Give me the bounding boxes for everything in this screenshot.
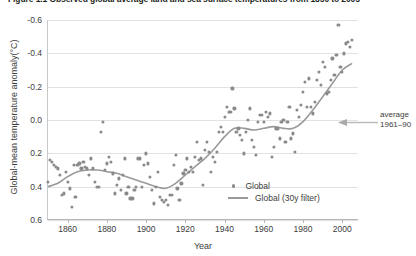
x-tick-label: 1860 [58,224,77,234]
legend-label-global: Global [245,181,270,191]
y-tick-label: -0.6 [27,15,42,25]
figure-title: Figure 1.1 Observed global average land … [8,0,412,6]
legend-line-icon [228,197,248,199]
arrow-left-icon [338,118,378,127]
y-axis-label: Global-mean temperature anomaly(°C) [9,17,19,217]
x-tick-label: 1960 [254,224,273,234]
x-tick-mark [342,220,343,223]
legend-dot-icon [232,184,235,187]
x-tick-mark [146,220,147,223]
y-tick-label: -0.2 [27,82,42,92]
legend-item-global: Global [228,180,320,192]
filter-line-path [48,63,352,188]
x-tick-mark [68,220,69,223]
x-tick-mark [303,220,304,223]
gridline-y [48,220,358,221]
x-tick-label: 1980 [294,224,313,234]
x-tick-label: 1920 [176,224,195,234]
legend: Global Global (30y filter) [228,180,320,204]
x-tick-label: 1880 [97,224,116,234]
x-tick-mark [264,220,265,223]
annotation-line-1: average [380,110,411,120]
x-tick-mark [185,220,186,223]
y-tick-label: 0.4 [30,182,42,192]
y-tick-label: 0.0 [30,115,42,125]
legend-item-global-filter: Global (30y filter) [228,192,320,204]
x-tick-label: 1940 [215,224,234,234]
y-tick-label: 0.2 [30,148,42,158]
x-axis-label: Year [48,241,358,251]
x-tick-mark [225,220,226,223]
x-tick-label: 1900 [137,224,156,234]
annotation-average-1961-90: average 1961–90 [380,110,411,130]
annotation-line-2: 1961–90 [380,120,411,130]
legend-label-global-filter: Global (30y filter) [255,193,320,203]
y-tick-label: 0.6 [30,215,42,225]
figure-container: Figure 1.1 Observed global average land … [0,0,416,256]
y-tick-label: -0.4 [27,48,42,58]
x-tick-label: 2000 [333,224,352,234]
x-tick-mark [107,220,108,223]
